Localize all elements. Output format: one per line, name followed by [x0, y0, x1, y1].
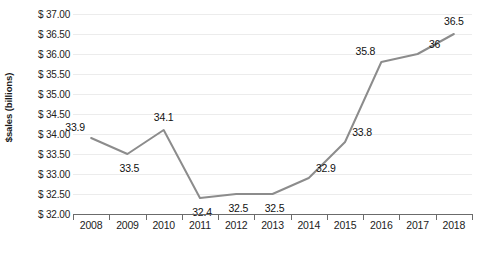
data-point-label: 32.9 — [316, 162, 336, 174]
y-axis-tick-label: $ 32.00 — [18, 209, 70, 220]
x-axis-tick-label: 2012 — [225, 219, 248, 231]
data-point-label: 33.5 — [120, 162, 140, 174]
x-axis-tick-labels: 2008200920102011201220132014201520162017… — [73, 219, 472, 239]
x-axis-tick-label: 2009 — [116, 219, 139, 231]
data-point-label: 35.8 — [355, 45, 375, 57]
data-point-label: 32.5 — [228, 202, 248, 214]
plot-area: 33.933.534.132.432.532.532.933.835.83636… — [73, 14, 472, 214]
x-axis-tick-label: 2016 — [370, 219, 393, 231]
x-axis-tick-label: 2008 — [80, 219, 103, 231]
x-axis-tick-label: 2017 — [406, 219, 429, 231]
y-axis-tick-label: $ 35.00 — [18, 89, 70, 100]
x-axis-tick-label: 2018 — [443, 219, 466, 231]
y-axis-tick-label: $ 37.00 — [18, 9, 70, 20]
y-axis-tick-label: $ 34.00 — [18, 129, 70, 140]
x-axis-tick-label: 2010 — [152, 219, 175, 231]
data-point-label: 36.5 — [444, 15, 464, 27]
data-point-label: 32.4 — [192, 206, 212, 218]
y-axis-title-text: $sales (billions) — [4, 72, 15, 142]
line-chart: $sales (billions) $ 37.00$ 36.50$ 36.00$… — [0, 0, 488, 253]
x-axis-tick-label: 2013 — [261, 219, 284, 231]
data-point-label: 36 — [429, 38, 440, 50]
series-line — [73, 14, 472, 214]
y-axis-tick-label: $ 36.50 — [18, 29, 70, 40]
x-axis-tick-label: 2015 — [334, 219, 357, 231]
data-point-label: 34.1 — [154, 111, 174, 123]
y-axis-tick-label: $ 33.50 — [18, 149, 70, 160]
x-axis-line — [73, 214, 472, 215]
y-axis-tick-label: $ 36.00 — [18, 49, 70, 60]
data-point-label: 33.9 — [65, 121, 85, 133]
series-polyline — [91, 34, 454, 198]
y-axis-tick-label: $ 34.50 — [18, 109, 70, 120]
data-point-label: 32.5 — [265, 202, 285, 214]
y-axis-tick-label: $ 33.00 — [18, 169, 70, 180]
y-axis-tick-label: $ 35.50 — [18, 69, 70, 80]
x-axis-tick-label: 2011 — [189, 219, 211, 231]
x-axis-tick-label: 2014 — [297, 219, 320, 231]
x-axis-tick — [472, 214, 473, 220]
data-point-label: 33.8 — [352, 126, 372, 138]
y-axis-tick-label: $ 32.50 — [18, 189, 70, 200]
y-axis-tick-labels: $ 37.00$ 36.50$ 36.00$ 35.50$ 35.00$ 34.… — [16, 0, 70, 253]
